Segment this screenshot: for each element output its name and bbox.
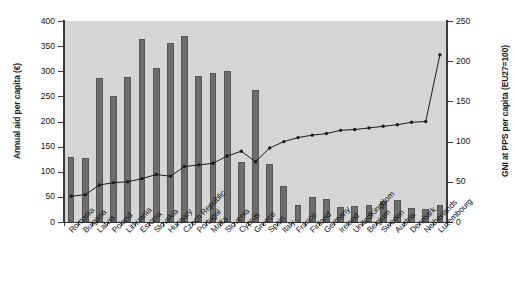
y-tick-left: [58, 172, 64, 173]
y-tick-label-right: 100: [456, 137, 470, 146]
x-tick: [64, 222, 65, 226]
bar: [295, 205, 302, 222]
y-tick-label-left: 100: [21, 167, 55, 176]
bar: [110, 96, 117, 222]
y-tick-right: [447, 21, 453, 22]
bar: [195, 76, 202, 222]
y-tick-left: [58, 122, 64, 123]
bar: [181, 36, 188, 222]
y-tick-label-left: 300: [21, 67, 55, 76]
y-tick-left: [58, 21, 64, 22]
y-tick-left: [58, 46, 64, 47]
y-tick-right: [447, 101, 453, 102]
y-tick-label-right: 50: [456, 177, 465, 186]
y-tick-right: [447, 61, 453, 62]
y-tick-label-left: 150: [21, 142, 55, 151]
y-tick-label-right: 250: [456, 17, 470, 26]
bar: [167, 43, 174, 222]
y-axis-left-title: Annual aid per capita (€): [12, 36, 22, 186]
y-tick-right: [447, 182, 453, 183]
y-tick-label-left: 250: [21, 92, 55, 101]
bar: [139, 39, 146, 222]
bar: [96, 78, 103, 222]
bar: [124, 77, 131, 222]
y-axis-right-line: [446, 20, 448, 223]
y-tick-left: [58, 147, 64, 148]
y-tick-left: [58, 96, 64, 97]
y-tick-left: [58, 71, 64, 72]
y-tick-label-left: 200: [21, 117, 55, 126]
bar: [68, 157, 75, 222]
y-tick-right: [447, 142, 453, 143]
y-tick-label-left: 400: [21, 17, 55, 26]
y-tick-label-right: 200: [456, 57, 470, 66]
y-tick-label-left: 0: [21, 218, 55, 227]
y-tick-label-left: 50: [21, 192, 55, 201]
y-tick-label-left: 350: [21, 42, 55, 51]
bar: [252, 90, 259, 222]
y-axis-right-title: GNI at PPS per capita (EU27=100): [500, 26, 510, 196]
bar: [153, 68, 160, 222]
y-tick-label-right: 150: [456, 97, 470, 106]
chart-container: Annual aid per capita (€) GNI at PPS per…: [0, 0, 514, 308]
bar: [224, 71, 231, 222]
y-tick-left: [58, 197, 64, 198]
